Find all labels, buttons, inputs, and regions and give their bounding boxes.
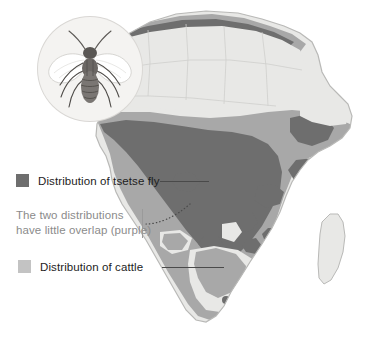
overlap-annotation-line2: have little overlap (purple) bbox=[16, 223, 140, 238]
legend-item-tsetse: Distribution of tsetse fly bbox=[16, 174, 159, 187]
dotted-arc bbox=[146, 204, 190, 224]
legend-label-tsetse: Distribution of tsetse fly bbox=[38, 175, 159, 187]
overlap-annotation-line1: The two distributions bbox=[16, 208, 140, 223]
overlap-annotation: The two distributions have little overla… bbox=[16, 208, 140, 238]
madagascar bbox=[318, 214, 345, 284]
fly-antennae bbox=[69, 31, 111, 49]
fly-illustration bbox=[38, 17, 142, 121]
leader-line-tsetse bbox=[160, 181, 209, 182]
figure-root: Distribution of tsetse fly Distribution … bbox=[0, 0, 368, 346]
legend-label-cattle: Distribution of cattle bbox=[40, 261, 143, 273]
cattle-swatch bbox=[18, 260, 31, 273]
overlap-bracket bbox=[142, 209, 143, 238]
legend-item-cattle: Distribution of cattle bbox=[18, 260, 143, 273]
tsetse-swatch bbox=[16, 174, 29, 187]
leader-line-cattle bbox=[162, 267, 224, 268]
overlap-dotted-leader bbox=[144, 198, 198, 232]
tsetse-fly-inset bbox=[38, 17, 142, 121]
fly-head bbox=[83, 47, 97, 59]
